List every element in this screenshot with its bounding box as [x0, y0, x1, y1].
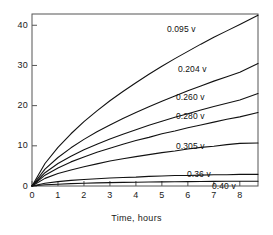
curve-label-0-204-v: 0.204 v [178, 65, 207, 74]
x-tick-label: 0 [25, 191, 39, 200]
x-tick-label: 3 [103, 191, 117, 200]
curve-series [32, 15, 258, 186]
plot-frame [32, 14, 258, 186]
x-tick-label: 2 [77, 191, 91, 200]
y-tick-label: 10 [4, 141, 28, 150]
curve-label-0-280-v: 0.280 v [176, 112, 205, 121]
y-tick-label: 20 [4, 101, 28, 110]
x-axis-title: Time, hours [0, 213, 273, 223]
x-tick-label: 4 [129, 191, 143, 200]
y-tick-label: 40 [4, 21, 28, 30]
curve-label-0-260-v: 0.260 v [176, 93, 205, 102]
curve-label-0-36-v: 0.36 v [187, 170, 211, 179]
x-tick-label: 1 [51, 191, 65, 200]
y-tick-label: 0 [4, 182, 28, 191]
curve-label-0-305-v: 0.305 v [176, 142, 205, 151]
voltage-time-chart: 010203040 012345678 0.095 v0.204 v0.260 … [0, 0, 273, 235]
x-tick-label: 5 [155, 191, 169, 200]
curve-label-0-40-v: 0.40 v [212, 182, 236, 191]
curve-label-0-095-v: 0.095 v [167, 25, 196, 34]
y-tick-label: 30 [4, 61, 28, 70]
x-tick-label: 7 [207, 191, 221, 200]
x-tick-label: 8 [233, 191, 247, 200]
axis-ticks [32, 25, 240, 186]
x-tick-label: 6 [181, 191, 195, 200]
